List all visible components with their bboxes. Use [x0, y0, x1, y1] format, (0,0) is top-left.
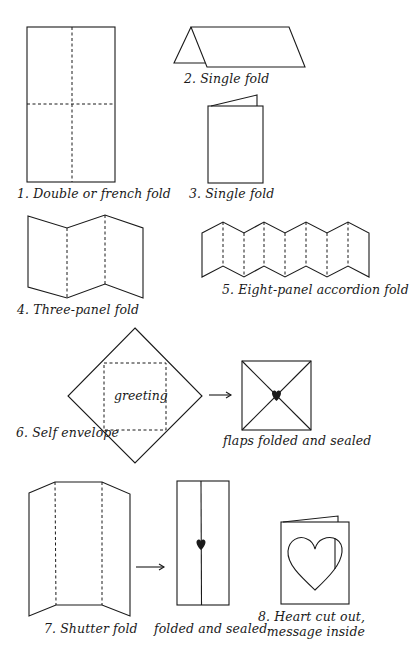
label-fig6-result: flaps folded and sealed: [223, 434, 371, 448]
label-fig5: 5. Eight-panel accordion fold: [222, 283, 409, 297]
figure-shutter-fold: [29, 482, 130, 616]
figure-heart-cutout-card: [281, 516, 349, 604]
figure-three-panel-fold: [28, 215, 143, 298]
label-fig8-line1: 8. Heart cut out,: [258, 610, 365, 624]
label-fig7-result: folded and sealed: [154, 622, 267, 636]
arrow-icon: [136, 564, 164, 570]
label-fig2: 2. Single fold: [184, 72, 269, 86]
label-fig6: 6. Self envelope: [16, 426, 119, 440]
label-fig8-line2: message inside: [267, 625, 365, 639]
heart-outline-icon: [288, 538, 342, 590]
label-fig7: 7. Shutter fold: [44, 622, 138, 636]
figure-envelope-sealed: [242, 361, 311, 430]
figure-shutter-sealed: [177, 481, 229, 605]
figure-double-french-fold: [27, 27, 115, 182]
figure-accordion-fold: [202, 222, 369, 277]
label-fig1: 1. Double or french fold: [17, 187, 171, 201]
label-fig3: 3. Single fold: [189, 187, 274, 201]
label-fig4: 4. Three-panel fold: [17, 303, 139, 317]
arrow-icon: [209, 392, 231, 398]
figure-single-fold-card: [208, 95, 263, 183]
figure-single-fold-tent: [174, 27, 305, 67]
greeting-text: greeting: [114, 388, 168, 403]
